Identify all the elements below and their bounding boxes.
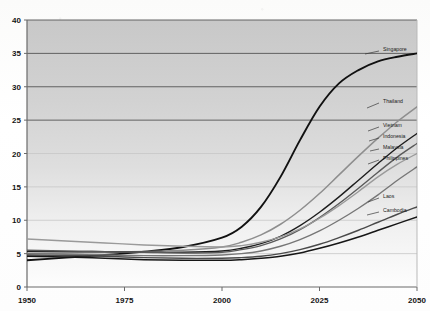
y-tick-label: 10: [12, 216, 21, 225]
y-tick-label: 30: [12, 83, 21, 92]
x-tick-label: 1950: [18, 296, 36, 305]
y-tick-label: 0: [17, 283, 22, 292]
series-label-singapore: Singapore: [383, 46, 407, 52]
y-axis-tick-labels: 0510152025303540: [12, 16, 21, 292]
y-tick-label: 5: [17, 250, 22, 259]
y-tick-label: 15: [12, 183, 21, 192]
chart-figure: 0510152025303540 19501975200020252050 Si…: [0, 0, 430, 311]
y-tick-label: 40: [12, 16, 21, 25]
series-label-vietnam: Vietnam: [383, 122, 402, 128]
y-tick-label: 25: [12, 116, 21, 125]
series-label-laos: Laos: [383, 193, 395, 199]
series-label-cambodia: Cambodia: [383, 207, 407, 213]
series-label-malaysia: Malaysia: [383, 144, 404, 150]
series-label-thailand: Thailand: [383, 98, 403, 104]
x-tick-label: 2025: [311, 296, 329, 305]
series-label-philippines: Philippines: [383, 155, 408, 161]
y-tick-label: 35: [12, 49, 21, 58]
series-label-indonesia: Indonesia: [383, 133, 406, 139]
x-tick-label: 2050: [408, 296, 426, 305]
y-tick-label: 20: [12, 150, 21, 159]
x-axis-tick-labels: 19501975200020252050: [18, 296, 426, 305]
line-chart: 0510152025303540 19501975200020252050 Si…: [0, 0, 430, 311]
x-tick-label: 2000: [213, 296, 231, 305]
x-tick-label: 1975: [116, 296, 134, 305]
